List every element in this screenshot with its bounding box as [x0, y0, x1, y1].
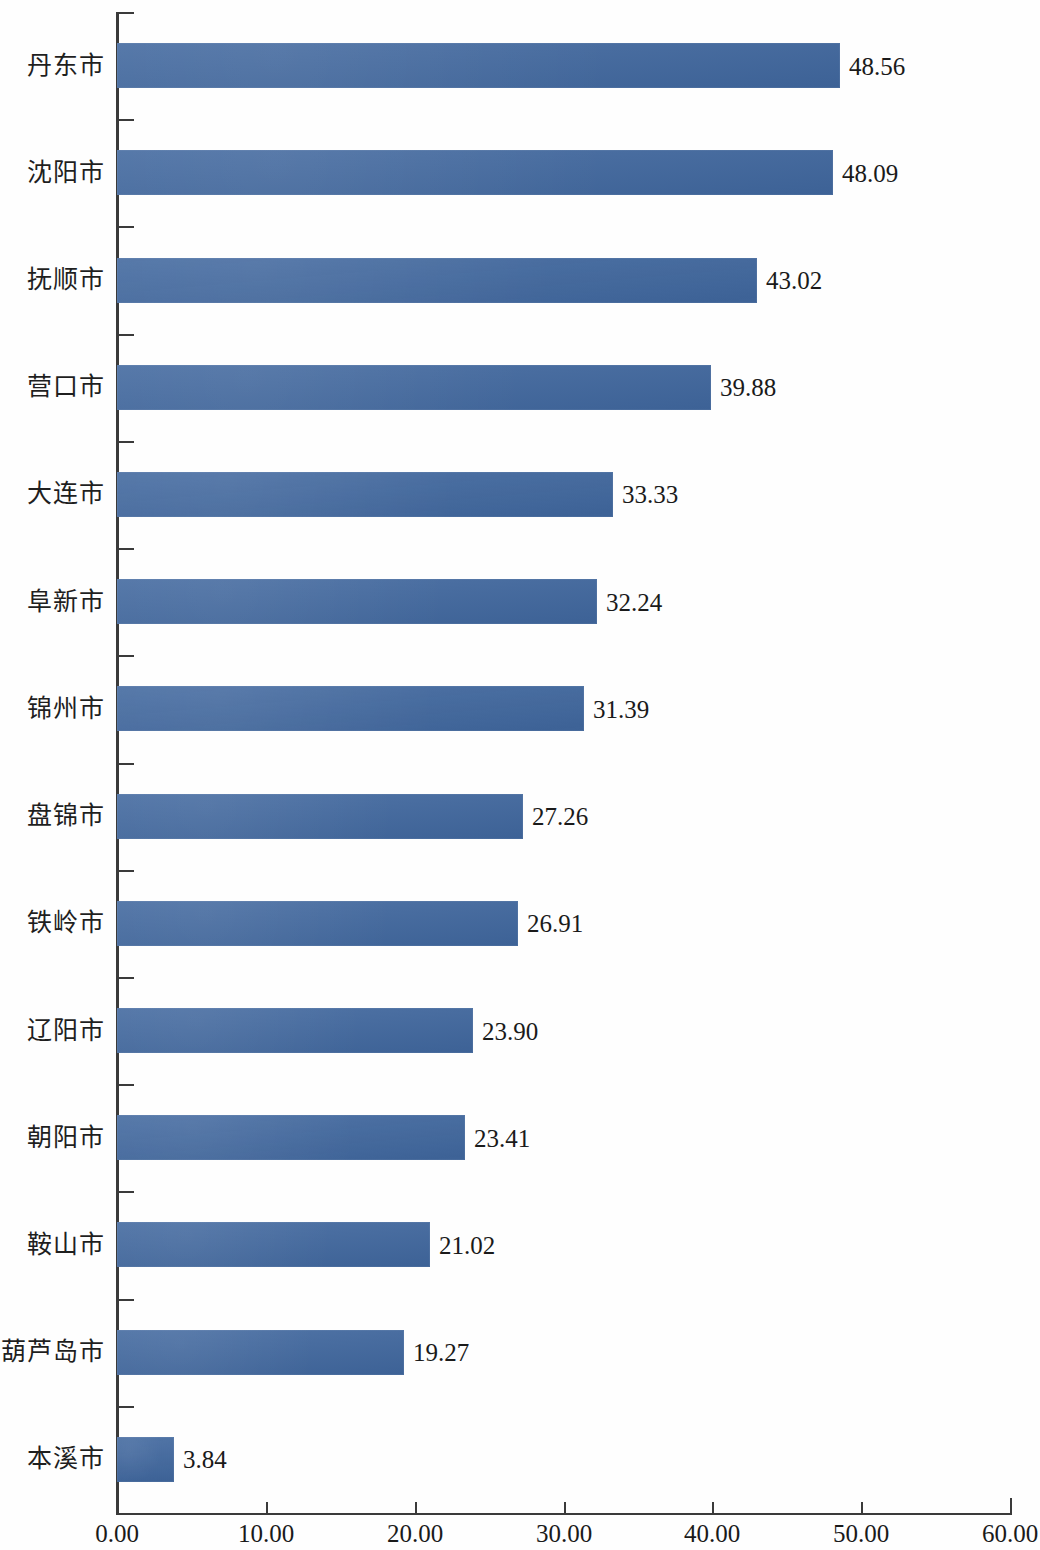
x-axis-tick — [861, 1502, 863, 1515]
bar-value-label: 3.84 — [183, 1447, 227, 1472]
bar-value-label: 23.41 — [474, 1126, 530, 1151]
category-label: 大连市 — [0, 481, 105, 506]
y-axis-tick — [119, 548, 134, 550]
y-axis-tick — [119, 119, 134, 121]
bar-value-label: 32.24 — [606, 590, 662, 615]
bar-value-label: 26.91 — [527, 911, 583, 936]
bar-value-label: 43.02 — [766, 268, 822, 293]
y-axis-tick — [119, 1084, 134, 1086]
y-axis-tick — [119, 763, 134, 765]
category-label: 辽阳市 — [0, 1018, 105, 1043]
bar-value-label: 39.88 — [720, 375, 776, 400]
bar-value-label: 48.56 — [849, 54, 905, 79]
category-label: 盘锦市 — [0, 803, 105, 828]
x-axis-tick-label: 0.00 — [95, 1521, 139, 1546]
bar-value-label: 23.90 — [482, 1019, 538, 1044]
bar — [117, 1115, 465, 1160]
x-axis-tick — [564, 1502, 566, 1515]
y-axis-tick — [119, 1191, 134, 1193]
category-label: 鞍山市 — [0, 1232, 105, 1257]
x-axis-tick-label: 20.00 — [387, 1521, 443, 1546]
y-axis-tick — [119, 655, 134, 657]
category-label: 铁岭市 — [0, 910, 105, 935]
category-label: 本溪市 — [0, 1446, 105, 1471]
y-axis-tick — [119, 441, 134, 443]
category-label: 阜新市 — [0, 589, 105, 614]
x-axis-tick — [1010, 1498, 1012, 1515]
category-label: 锦州市 — [0, 696, 105, 721]
x-axis-tick-label: 30.00 — [536, 1521, 592, 1546]
bar-value-label: 27.26 — [532, 804, 588, 829]
category-label: 葫芦岛市 — [0, 1339, 105, 1364]
y-axis-tick — [119, 1406, 134, 1408]
y-axis-tick — [119, 334, 134, 336]
bar — [117, 258, 757, 303]
bar-value-label: 48.09 — [842, 161, 898, 186]
x-axis-tick-label: 50.00 — [833, 1521, 889, 1546]
category-label: 丹东市 — [0, 53, 105, 78]
bar — [117, 1222, 430, 1267]
y-axis-tick — [119, 977, 134, 979]
bar — [117, 1330, 404, 1375]
y-axis-tick — [119, 226, 134, 228]
x-axis-tick — [266, 1502, 268, 1515]
category-label: 朝阳市 — [0, 1125, 105, 1150]
bar — [117, 472, 613, 517]
bar — [117, 579, 597, 624]
bar — [117, 1008, 473, 1053]
y-axis-tick — [119, 870, 134, 872]
category-label: 抚顺市 — [0, 267, 105, 292]
bar — [117, 901, 518, 946]
x-axis-tick-label: 60.00 — [982, 1521, 1038, 1546]
x-axis-tick — [712, 1502, 714, 1515]
category-label: 沈阳市 — [0, 160, 105, 185]
bar-value-label: 33.33 — [622, 482, 678, 507]
bar — [117, 686, 584, 731]
bar-value-label: 19.27 — [413, 1340, 469, 1365]
bar — [117, 1437, 174, 1482]
bar — [117, 43, 840, 88]
x-axis-tick-label: 40.00 — [684, 1521, 740, 1546]
y-axis-tick — [119, 1299, 134, 1301]
bar-value-label: 31.39 — [593, 697, 649, 722]
bar-chart: 丹东市沈阳市抚顺市营口市大连市阜新市锦州市盘锦市铁岭市辽阳市朝阳市鞍山市葫芦岛市… — [0, 0, 1040, 1550]
bar-value-label: 21.02 — [439, 1233, 495, 1258]
x-axis-tick-label: 10.00 — [238, 1521, 294, 1546]
y-axis-tick — [119, 12, 134, 14]
bar — [117, 365, 711, 410]
category-label: 营口市 — [0, 374, 105, 399]
bar — [117, 794, 523, 839]
x-axis-tick — [415, 1502, 417, 1515]
bar — [117, 150, 833, 195]
